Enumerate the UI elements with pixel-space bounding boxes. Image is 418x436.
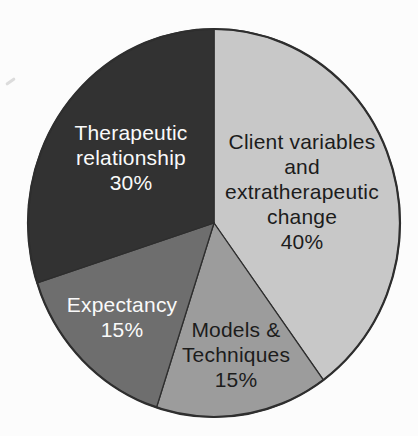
slice-label-expectancy: Expectancy 15% <box>22 292 222 342</box>
slice-label-line: relationship <box>31 145 231 170</box>
slice-label-line: extratherapeutic <box>204 179 400 204</box>
slice-label-line: and <box>204 154 400 179</box>
slice-label-line: Techniques <box>136 342 336 367</box>
slice-label-line: change <box>204 204 400 229</box>
slice-label-line: Therapeutic <box>31 120 231 145</box>
slice-percentage: 15% <box>136 367 336 392</box>
slice-percentage: 40% <box>204 229 400 254</box>
slice-percentage: 15% <box>22 317 222 342</box>
slice-percentage: 30% <box>31 170 231 195</box>
pie-chart-figure: Client variables and extratherapeutic ch… <box>0 0 418 436</box>
slice-label-therapeutic-relationship: Therapeutic relationship 30% <box>31 120 231 195</box>
slice-label-line: Client variables <box>204 129 400 154</box>
slice-label-client-variables: Client variables and extratherapeutic ch… <box>204 129 400 254</box>
slice-label-line: Expectancy <box>22 292 222 317</box>
